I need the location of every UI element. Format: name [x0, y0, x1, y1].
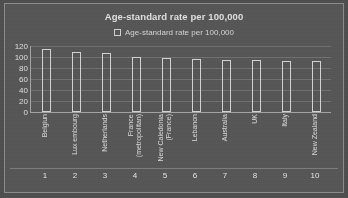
x-axis-rank-label: 8	[240, 171, 270, 180]
x-axis-category: France (metropolitan)	[120, 114, 150, 166]
bar	[132, 57, 141, 112]
bar	[162, 58, 171, 112]
y-axis-tick-label: 100	[15, 53, 28, 62]
x-axis-rank-label: 3	[90, 171, 120, 180]
bar-series	[31, 46, 331, 112]
bar	[252, 60, 261, 112]
x-axis-rank-label: 4	[120, 171, 150, 180]
bar	[282, 61, 291, 112]
x-axis-category: Italy	[270, 114, 300, 166]
x-axis-rank-labels: 12345678910	[30, 171, 330, 180]
x-axis-category: New Zealand	[300, 114, 330, 166]
x-axis-category: Netherlands	[90, 114, 120, 166]
bar	[312, 61, 321, 112]
chart-legend: Age-standard rate per 100,000	[0, 28, 348, 37]
x-axis-category-label: France (metropolitan)	[127, 114, 142, 157]
bar	[72, 52, 81, 113]
plot-area	[30, 46, 331, 113]
x-axis-category-label: Netherlands	[101, 114, 109, 152]
x-axis-category-label: Italy	[281, 114, 289, 127]
x-axis-category: UK	[240, 114, 270, 166]
y-axis: 120100806040200	[4, 46, 28, 112]
x-axis-rank-label: 2	[60, 171, 90, 180]
bar	[222, 60, 231, 112]
chart-title: Age-standard rate per 100,000	[0, 11, 348, 22]
x-axis-rank-label: 10	[300, 171, 330, 180]
x-axis-category-label: Lebanon	[191, 114, 199, 141]
x-axis-category-label: Lux embourg	[71, 114, 79, 155]
axis-divider	[10, 168, 338, 169]
y-axis-tick-label: 80	[19, 64, 28, 73]
x-axis-category-labels: BelgiunLux embourgNetherlandsFrance (met…	[30, 114, 330, 166]
x-axis-rank-label: 9	[270, 171, 300, 180]
x-axis-category-label: Australia	[221, 114, 229, 141]
bar	[102, 53, 111, 112]
y-axis-tick-label: 120	[15, 42, 28, 51]
x-axis-category-label: UK	[251, 114, 259, 124]
x-axis-category: Belgiun	[30, 114, 60, 166]
x-axis-category-label: Belgiun	[41, 114, 49, 137]
x-axis-rank-label: 6	[180, 171, 210, 180]
legend-label: Age-standard rate per 100,000	[125, 28, 234, 37]
x-axis-rank-label: 5	[150, 171, 180, 180]
legend-swatch-icon	[114, 29, 121, 36]
x-axis-category: Australia	[210, 114, 240, 166]
y-axis-tick-label: 40	[19, 86, 28, 95]
x-axis-category: New Caledonia (France)	[150, 114, 180, 166]
x-axis-category-label: New Zealand	[311, 114, 319, 155]
bar	[42, 49, 51, 112]
x-axis-category-label: New Caledonia (France)	[157, 114, 172, 161]
x-axis-category: Lux embourg	[60, 114, 90, 166]
y-axis-tick-label: 60	[19, 75, 28, 84]
y-axis-tick-label: 20	[19, 97, 28, 106]
bar	[192, 59, 201, 112]
x-axis-category: Lebanon	[180, 114, 210, 166]
y-axis-tick-label: 0	[24, 108, 28, 117]
chart-screenshot: Age-standard rate per 100,000 Age-standa…	[0, 0, 348, 198]
x-axis-rank-label: 7	[210, 171, 240, 180]
x-axis-rank-label: 1	[30, 171, 60, 180]
